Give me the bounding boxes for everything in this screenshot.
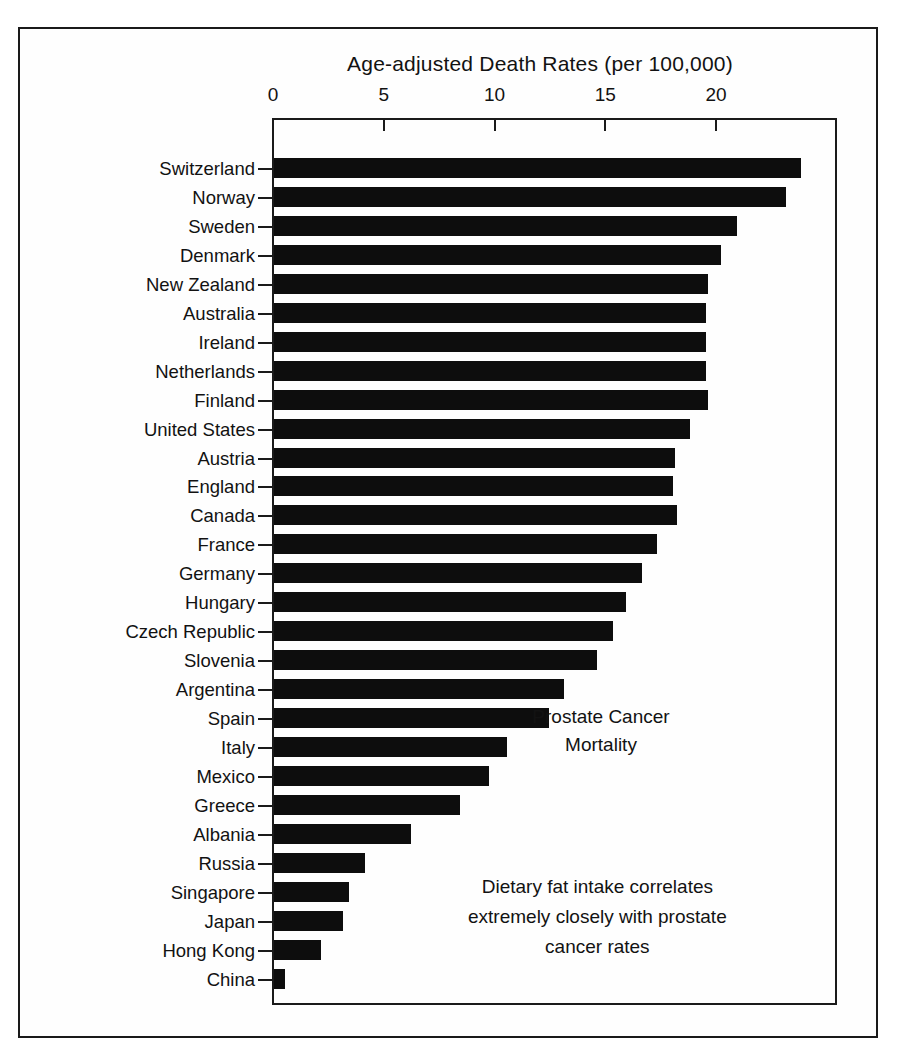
category-leader-line [258, 660, 274, 662]
bar-row: Switzerland [0, 158, 914, 187]
category-label: Greece [194, 796, 255, 816]
bar [274, 361, 706, 381]
category-label: Spain [208, 709, 255, 729]
annotation-prostate-cancer-mortality: Prostate Cancer Mortality [532, 703, 669, 759]
category-leader-line [258, 921, 274, 923]
category-leader-line [258, 747, 274, 749]
category-label: Denmark [180, 246, 255, 266]
category-leader-line [258, 602, 274, 604]
category-label: Singapore [171, 883, 255, 903]
category-leader-line [258, 371, 274, 373]
bar-row: Ireland [0, 332, 914, 361]
bar [274, 505, 677, 525]
category-label: Canada [190, 506, 255, 526]
category-label: Japan [205, 912, 255, 932]
category-label: Australia [183, 304, 255, 324]
bar [274, 621, 613, 641]
category-leader-line [258, 776, 274, 778]
bar [274, 969, 285, 989]
category-label: Austria [197, 449, 255, 469]
bar [274, 534, 657, 554]
bar-row: Czech Republic [0, 621, 914, 650]
bar [274, 187, 786, 207]
category-label: Germany [179, 564, 255, 584]
bar [274, 216, 737, 236]
category-leader-line [258, 197, 274, 199]
bar-row: Greece [0, 795, 914, 824]
category-leader-line [258, 573, 274, 575]
bar [274, 766, 489, 786]
bar-row: Japan [0, 911, 914, 940]
category-leader-line [258, 486, 274, 488]
category-leader-line [258, 834, 274, 836]
category-leader-line [258, 950, 274, 952]
x-axis-tick-label: 15 [595, 84, 616, 106]
bar-row: Australia [0, 303, 914, 332]
bar-row: Mexico [0, 766, 914, 795]
bar-row: Italy [0, 737, 914, 766]
bar [274, 158, 801, 178]
bar-row: Hong Kong [0, 940, 914, 969]
bar-row: China [0, 969, 914, 998]
bar [274, 563, 642, 583]
category-label: Russia [198, 854, 255, 874]
category-leader-line [258, 718, 274, 720]
bar-row: Austria [0, 448, 914, 477]
category-leader-line [258, 515, 274, 517]
bar [274, 245, 721, 265]
category-label: Norway [192, 188, 255, 208]
bar [274, 274, 708, 294]
bar [274, 940, 321, 960]
bar-row: Netherlands [0, 361, 914, 390]
bar [274, 592, 626, 612]
category-leader-line [258, 631, 274, 633]
bar-row: England [0, 476, 914, 505]
category-leader-line [258, 313, 274, 315]
category-leader-line [258, 255, 274, 257]
bar-row: Russia [0, 853, 914, 882]
category-label: Sweden [188, 217, 255, 237]
bar [274, 303, 706, 323]
category-label: England [187, 477, 255, 497]
bar-row: Spain [0, 708, 914, 737]
category-leader-line [258, 458, 274, 460]
bar-row: France [0, 534, 914, 563]
category-leader-line [258, 544, 274, 546]
category-leader-line [258, 429, 274, 431]
bar-row: Hungary [0, 592, 914, 621]
bar-row: New Zealand [0, 274, 914, 303]
category-label: United States [144, 420, 255, 440]
bar [274, 795, 460, 815]
category-leader-line [258, 979, 274, 981]
category-label: Finland [194, 391, 255, 411]
bar-row: Norway [0, 187, 914, 216]
chart-title: Age-adjusted Death Rates (per 100,000) [230, 52, 850, 76]
bar-row: Argentina [0, 679, 914, 708]
category-label: Argentina [176, 680, 255, 700]
category-label: Mexico [196, 767, 255, 787]
category-label: France [197, 535, 255, 555]
bar [274, 448, 675, 468]
bar-row: Slovenia [0, 650, 914, 679]
bar-row: Denmark [0, 245, 914, 274]
category-label: Hungary [185, 593, 255, 613]
bar [274, 679, 564, 699]
bar-row: Germany [0, 563, 914, 592]
category-leader-line [258, 168, 274, 170]
category-leader-line [258, 805, 274, 807]
bar [274, 737, 507, 757]
bar [274, 882, 349, 902]
bar-row: United States [0, 419, 914, 448]
x-axis-tick-label: 10 [484, 84, 505, 106]
bar [274, 390, 708, 410]
category-label: Netherlands [155, 362, 255, 382]
category-leader-line [258, 689, 274, 691]
bar-row: Finland [0, 390, 914, 419]
bar-row: Albania [0, 824, 914, 853]
category-label: Slovenia [184, 651, 255, 671]
bar [274, 824, 411, 844]
category-label: Czech Republic [125, 622, 255, 642]
category-leader-line [258, 342, 274, 344]
category-leader-line [258, 892, 274, 894]
category-label: New Zealand [146, 275, 255, 295]
